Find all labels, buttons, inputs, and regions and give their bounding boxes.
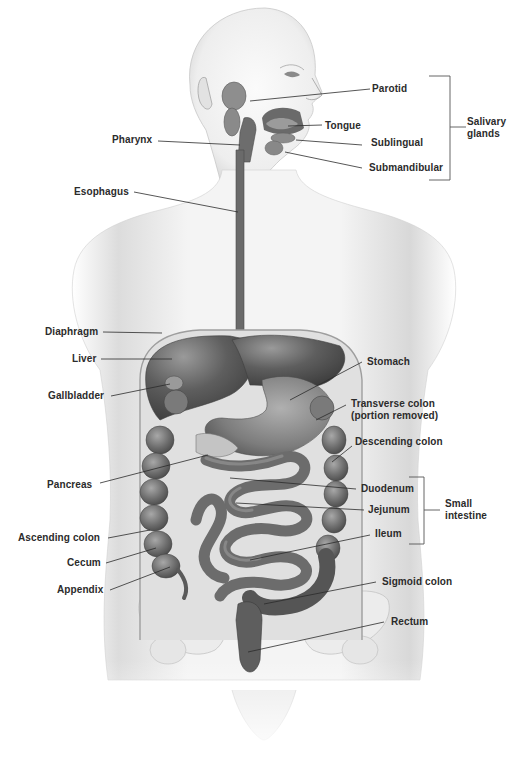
label-esophagus: Esophagus (74, 186, 129, 198)
label-pharynx: Pharynx (112, 134, 152, 146)
label-small-intestine-line2: intestine (445, 510, 487, 522)
digestive-system-illustration (0, 0, 528, 759)
label-transverse-colon: Transverse colon (portion removed) (351, 398, 438, 422)
head (190, 8, 322, 188)
label-ascending-colon: Ascending colon (18, 532, 100, 544)
label-appendix: Appendix (57, 584, 103, 596)
label-rectum: Rectum (391, 616, 428, 628)
label-salivary-glands-line1: Salivary (467, 116, 506, 128)
label-transverse-colon-line2: (portion removed) (351, 410, 438, 422)
label-parotid: Parotid (372, 83, 407, 95)
label-small-intestine: Small intestine (445, 498, 487, 522)
label-cecum: Cecum (67, 557, 101, 569)
label-small-intestine-line1: Small (445, 498, 487, 510)
label-salivary-glands-line2: glands (467, 128, 506, 140)
label-jejunum: Jejunum (368, 504, 410, 516)
label-submandibular: Submandibular (369, 162, 443, 174)
label-descending-colon: Descending colon (355, 436, 443, 448)
label-pancreas: Pancreas (47, 479, 92, 491)
label-transverse-colon-line1: Transverse colon (351, 398, 438, 410)
label-sublingual: Sublingual (371, 137, 423, 149)
label-ileum: Ileum (375, 528, 402, 540)
label-salivary-glands: Salivary glands (467, 116, 506, 140)
label-sigmoid-colon: Sigmoid colon (382, 576, 452, 588)
label-duodenum: Duodenum (361, 483, 414, 495)
label-diaphragm: Diaphragm (45, 326, 98, 338)
label-liver: Liver (72, 353, 96, 365)
label-tongue: Tongue (325, 120, 361, 132)
label-gallbladder: Gallbladder (48, 390, 104, 402)
esophagus-shape (236, 150, 244, 330)
gallbladder-shape (165, 376, 183, 390)
label-stomach: Stomach (367, 356, 410, 368)
